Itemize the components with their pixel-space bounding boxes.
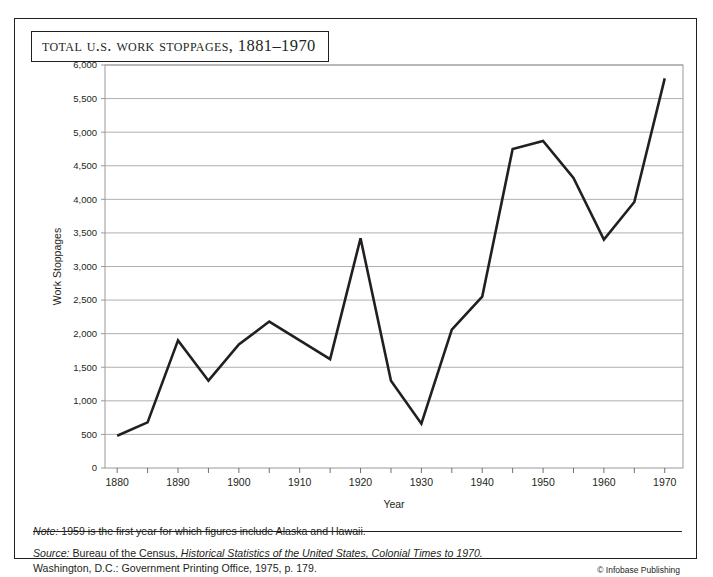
- chart-plot-area: 05001,0001,5002,0002,5003,0003,5004,0004…: [15, 19, 698, 560]
- y-axis-title: Work Stoppages: [51, 228, 63, 305]
- y-axis-tick-label: 3,500: [73, 227, 97, 238]
- x-axis-tick-label: 1960: [592, 476, 616, 488]
- x-axis-tick-label: 1910: [288, 476, 312, 488]
- source-title-italic: Historical Statistics of the United Stat…: [181, 547, 483, 559]
- source-text-line-2: Washington, D.C.: Government Printing Of…: [33, 561, 317, 576]
- y-axis-tick-label: 6,000: [73, 59, 97, 70]
- x-axis-tick-label: 1940: [471, 476, 495, 488]
- y-axis-tick-label: 5,500: [73, 93, 97, 104]
- source-publisher: Bureau of the Census,: [70, 547, 181, 559]
- y-axis-tick-label: 4,500: [73, 160, 97, 171]
- y-axis-tick-label: 4,000: [73, 194, 97, 205]
- y-axis-tick-label: 1,000: [73, 395, 97, 406]
- y-axis-tick-label: 3,000: [73, 261, 97, 272]
- source-text-line-1: Source: Bureau of the Census, Historical…: [33, 546, 483, 561]
- note-label: Note:: [33, 525, 58, 537]
- x-axis-tick-label: 1920: [349, 476, 373, 488]
- x-axis-title: Year: [383, 498, 405, 510]
- copyright-notice: © Infobase Publishing: [597, 565, 680, 575]
- y-axis-tick-label: 1,500: [73, 362, 97, 373]
- y-axis-tick-label: 5,000: [73, 127, 97, 138]
- x-axis-tick-label: 1880: [105, 476, 129, 488]
- x-axis-tick-label: 1970: [653, 476, 677, 488]
- y-axis-tick-label: 500: [81, 429, 97, 440]
- note-text: Note: 1959 is the first year for which f…: [33, 524, 366, 539]
- x-axis-tick-label: 1900: [227, 476, 251, 488]
- x-axis-tick-label: 1930: [410, 476, 434, 488]
- source-label: Source:: [33, 547, 70, 559]
- x-axis-tick-label: 1950: [531, 476, 555, 488]
- x-axis-tick-label: 1890: [166, 476, 190, 488]
- figure-panel: Total U.S. Work Stoppages, 1881–1970 050…: [14, 18, 697, 559]
- y-axis-tick-label: 2,000: [73, 328, 97, 339]
- line-chart-svg: 05001,0001,5002,0002,5003,0003,5004,0004…: [15, 19, 698, 519]
- y-axis-tick-label: 0: [92, 462, 97, 473]
- note-body: 1959 is the first year for which figures…: [58, 525, 365, 537]
- y-axis-tick-label: 2,500: [73, 294, 97, 305]
